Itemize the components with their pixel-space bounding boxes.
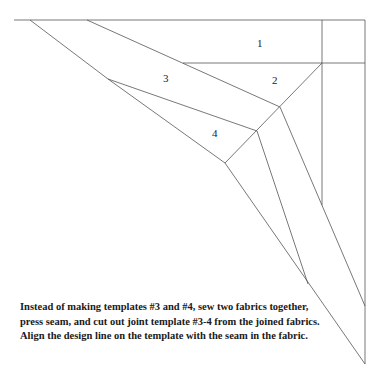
caption-text: Instead of making templates #3 and #4, s… <box>20 300 320 344</box>
template-diagram: 1 2 3 4 Instead of making templates #3 a… <box>0 0 386 385</box>
template-label-1: 1 <box>257 37 263 49</box>
template-label-4: 4 <box>212 127 218 139</box>
template-label-2: 2 <box>272 74 278 86</box>
template-label-3: 3 <box>163 72 169 84</box>
